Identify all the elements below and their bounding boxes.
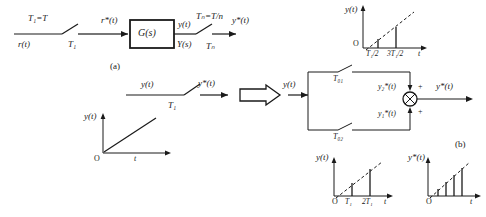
chart-bottom-right-ylabel: y*(t) bbox=[408, 153, 425, 162]
figure-root: T₁=T r(t) T₁ r*(t) G(s) y(t) Y(s) Tₙ=T/n… bbox=[0, 0, 486, 217]
chart-bottom-right-origin: O bbox=[426, 198, 432, 206]
chart-bottom-right-xlabel: t bbox=[470, 198, 472, 206]
chart-bottom-right-graphic bbox=[0, 0, 486, 217]
caption-b: (b) bbox=[455, 140, 466, 149]
